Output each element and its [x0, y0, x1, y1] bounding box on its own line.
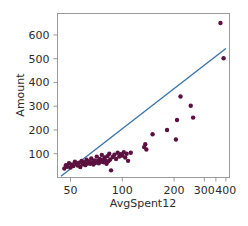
x-axis-title: AvgSpent12: [110, 197, 176, 210]
regression-line-segment: [61, 48, 226, 176]
data-point: [126, 159, 130, 163]
x-tick-label: 400: [215, 184, 236, 197]
data-point: [178, 94, 182, 98]
data-point: [175, 118, 179, 122]
x-axis-ticks: [71, 178, 226, 182]
data-point: [174, 137, 178, 141]
x-tick-label: 100: [112, 184, 133, 197]
data-point: [143, 142, 147, 146]
data-point: [144, 147, 148, 151]
data-point: [221, 56, 225, 60]
data-point: [129, 151, 133, 155]
y-tick-label: 200: [29, 124, 50, 137]
x-tick-label: 200: [164, 184, 185, 197]
y-tick-label: 400: [29, 76, 50, 89]
data-point: [165, 128, 169, 132]
x-tick-label: 50: [64, 184, 78, 197]
y-tick-label: 500: [29, 53, 50, 66]
data-point: [218, 21, 222, 25]
y-axis-title: Amount: [14, 73, 27, 117]
data-point: [107, 152, 111, 156]
data-point: [150, 132, 154, 136]
y-tick-label: 600: [29, 29, 50, 42]
chart-canvas: 50100200300400 100200300400500600 AvgSpe…: [0, 0, 248, 226]
data-point: [191, 115, 195, 119]
data-point: [109, 168, 113, 172]
x-tick-label: 300: [194, 184, 215, 197]
y-tick-label: 100: [29, 148, 50, 161]
x-axis-tick-labels: 50100200300400: [64, 184, 237, 197]
data-point: [189, 104, 193, 108]
y-axis-ticks: [54, 35, 58, 154]
plot-frame: [58, 14, 230, 178]
scatter-chart: 50100200300400 100200300400500600 AvgSpe…: [0, 0, 248, 226]
y-axis-tick-labels: 100200300400500600: [29, 29, 50, 161]
regression-line: [61, 48, 226, 176]
y-tick-label: 300: [29, 100, 50, 113]
data-point: [124, 152, 128, 156]
data-points: [62, 21, 226, 173]
